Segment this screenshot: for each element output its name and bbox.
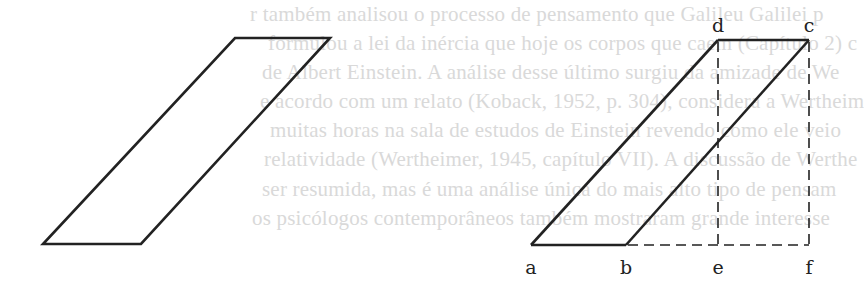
dashed-construction (628, 42, 809, 245)
right-parallelogram (531, 40, 809, 245)
edge-ad (531, 40, 718, 245)
vertex-label-c: c (804, 14, 815, 36)
vertex-label-b: b (620, 256, 632, 278)
vertex-label-f: f (805, 256, 814, 278)
vertex-label-a: a (525, 256, 536, 278)
vertex-label-e: e (712, 256, 723, 278)
vertex-label-d: d (712, 14, 724, 36)
left-parallelogram (43, 38, 330, 244)
